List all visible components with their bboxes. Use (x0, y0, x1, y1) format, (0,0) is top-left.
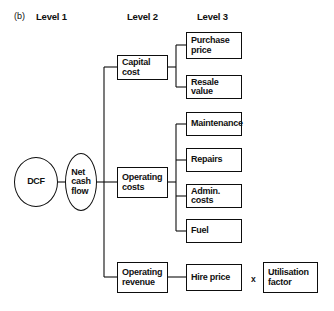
figure-canvas: (b) Level 1 Level 2 Level 3 DCF Net cash… (0, 0, 334, 311)
node-repairs[interactable]: Repairs (186, 148, 242, 172)
node-maintenance-label: Maintenance (191, 119, 243, 129)
node-capital-cost[interactable]: Capital cost (117, 55, 168, 80)
node-admin-costs[interactable]: Admin. costs (186, 184, 242, 208)
node-fuel[interactable]: Fuel (186, 219, 242, 243)
node-fuel-label: Fuel (191, 226, 209, 236)
node-dcf[interactable]: DCF (14, 157, 58, 207)
node-maintenance[interactable]: Maintenance (186, 112, 242, 136)
node-operating-costs[interactable]: Operating costs (117, 167, 168, 198)
node-net-cash-flow[interactable]: Net cash flow (65, 153, 97, 211)
node-hire-price-label: Hire price (191, 273, 230, 283)
node-resale-value-label: Resale value (191, 78, 239, 97)
node-admin-costs-label: Admin. costs (191, 187, 239, 206)
node-dcf-label: DCF (27, 177, 45, 187)
node-purchase-price-label: Purchase price (191, 36, 230, 55)
column-header-level-1: Level 1 (36, 11, 67, 22)
column-header-level-2: Level 2 (127, 11, 158, 22)
figure-marker: (b) (14, 11, 25, 21)
node-net-cash-flow-label: Net cash flow (71, 168, 91, 197)
node-hire-price[interactable]: Hire price (186, 264, 242, 291)
node-utilisation-factor[interactable]: Utilisation factor (263, 262, 318, 293)
node-purchase-price[interactable]: Purchase price (186, 32, 242, 59)
node-capital-cost-label: Capital cost (122, 58, 165, 77)
node-repairs-label: Repairs (191, 155, 222, 165)
multiplication-operator: x (251, 274, 256, 284)
node-operating-revenue-label: Operating revenue (122, 268, 162, 287)
column-header-level-3: Level 3 (197, 11, 228, 22)
node-operating-revenue[interactable]: Operating revenue (117, 262, 168, 293)
node-utilisation-factor-label: Utilisation factor (268, 268, 309, 287)
node-resale-value[interactable]: Resale value (186, 75, 242, 99)
node-operating-costs-label: Operating costs (122, 173, 162, 192)
